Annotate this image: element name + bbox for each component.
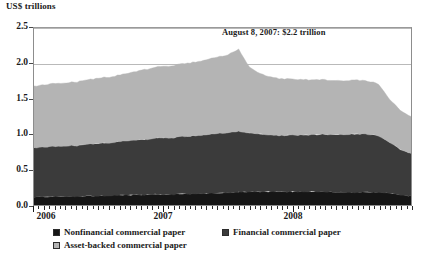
x-axis-minor-tick: [185, 206, 186, 210]
x-axis-minor-tick: [55, 206, 56, 210]
x-axis-tick-label: 2006: [37, 212, 56, 222]
y-axis-tick: [29, 63, 33, 64]
x-axis-minor-tick: [114, 206, 115, 209]
x-axis-minor-tick: [190, 206, 191, 209]
legend-label-nonfinancial: Nonfinancial commercial paper: [64, 228, 185, 237]
x-axis-minor-tick: [309, 206, 310, 209]
y-axis-tick-label: 2.5: [2, 22, 28, 32]
x-axis-minor-tick: [255, 206, 256, 209]
x-axis-minor-tick: [141, 206, 142, 210]
x-axis-minor-tick: [76, 206, 77, 210]
x-axis-minor-tick: [342, 206, 343, 209]
x-axis-minor-tick: [174, 206, 175, 210]
x-axis-minor-tick: [130, 206, 131, 210]
legend-label-assetbacked: Asset-backed commercial paper: [64, 241, 187, 250]
x-axis-minor-tick: [152, 206, 153, 210]
stacked-area-series: [34, 28, 411, 205]
x-axis-major-tick: [33, 206, 34, 212]
x-axis-minor-tick: [325, 206, 326, 210]
x-axis-minor-tick: [287, 206, 288, 209]
y-axis-tick: [29, 27, 33, 28]
x-axis-minor-tick: [412, 206, 413, 210]
legend-swatch-nonfinancial: [53, 229, 60, 236]
x-axis-minor-tick: [195, 206, 196, 210]
x-axis-minor-tick: [358, 206, 359, 210]
x-axis-minor-tick: [233, 206, 234, 209]
x-axis-minor-tick: [38, 206, 39, 209]
legend-item-assetbacked: Asset-backed commercial paper: [53, 241, 187, 250]
legend-swatch-financial: [222, 229, 229, 236]
x-axis-minor-tick: [374, 206, 375, 209]
legend-label-financial: Financial commercial paper: [233, 228, 341, 237]
x-axis-minor-tick: [158, 206, 159, 209]
x-axis-minor-tick: [250, 206, 251, 210]
y-axis-tick-label: 0.5: [2, 165, 28, 175]
x-axis-minor-tick: [87, 206, 88, 210]
x-axis-minor-tick: [179, 206, 180, 209]
y-axis-labels: 0.00.51.01.52.02.5: [0, 0, 28, 261]
x-axis-minor-tick: [266, 206, 267, 209]
y-axis-tick-label: 0.0: [2, 201, 28, 211]
legend-swatch-assetbacked: [53, 242, 60, 249]
x-axis-minor-tick: [60, 206, 61, 209]
x-axis-minor-tick: [239, 206, 240, 210]
x-axis-minor-tick: [407, 206, 408, 209]
x-axis-minor-tick: [244, 206, 245, 209]
x-axis-minor-tick: [82, 206, 83, 209]
x-axis-minor-tick: [363, 206, 364, 209]
x-axis-minor-tick: [217, 206, 218, 210]
x-axis-minor-tick: [401, 206, 402, 210]
plot-inner: [34, 28, 411, 205]
x-axis-minor-tick: [103, 206, 104, 209]
legend-item-financial: Financial commercial paper: [222, 228, 341, 237]
x-axis-minor-tick: [71, 206, 72, 209]
x-axis-minor-tick: [380, 206, 381, 210]
x-axis-minor-tick: [223, 206, 224, 209]
plot-area: [33, 27, 412, 206]
y-axis-tick: [29, 134, 33, 135]
x-axis-tick-label: 2007: [153, 212, 172, 222]
x-axis-minor-tick: [271, 206, 272, 210]
x-axis-minor-tick: [396, 206, 397, 209]
y-axis-tick-label: 2.0: [2, 58, 28, 68]
y-axis-tick: [29, 99, 33, 100]
x-axis-minor-tick: [347, 206, 348, 210]
x-axis-minor-tick: [147, 206, 148, 209]
x-axis-minor-tick: [206, 206, 207, 210]
x-axis-minor-tick: [304, 206, 305, 210]
x-axis-minor-tick: [336, 206, 337, 210]
x-axis-minor-tick: [136, 206, 137, 209]
peak-annotation: August 8, 2007: $2.2 trillion: [222, 28, 326, 37]
x-axis-minor-tick: [49, 206, 50, 209]
x-axis-minor-tick: [65, 206, 66, 210]
x-axis-minor-tick: [98, 206, 99, 210]
x-axis-minor-tick: [212, 206, 213, 209]
x-axis-minor-tick: [320, 206, 321, 209]
x-axis-minor-tick: [315, 206, 316, 210]
y-axis-tick: [29, 206, 33, 207]
x-axis-minor-tick: [201, 206, 202, 209]
x-axis-minor-tick: [260, 206, 261, 210]
y-axis-tick: [29, 170, 33, 171]
x-axis-minor-tick: [109, 206, 110, 210]
x-axis-minor-tick: [228, 206, 229, 210]
x-axis-minor-tick: [282, 206, 283, 210]
x-axis-minor-tick: [168, 206, 169, 209]
y-axis-tick-label: 1.5: [2, 94, 28, 104]
x-axis-minor-tick: [44, 206, 45, 210]
x-axis-tick-label: 2008: [283, 212, 302, 222]
y-axis-tick-label: 1.0: [2, 129, 28, 139]
x-axis-minor-tick: [385, 206, 386, 209]
x-axis-minor-tick: [125, 206, 126, 209]
x-axis-minor-tick: [93, 206, 94, 209]
x-axis-minor-tick: [331, 206, 332, 209]
x-axis-minor-tick: [277, 206, 278, 209]
commercial-paper-stacked-area-chart: US$ trillions 0.00.51.01.52.02.5 August …: [0, 0, 423, 261]
x-axis-minor-tick: [352, 206, 353, 209]
x-axis-minor-tick: [120, 206, 121, 210]
x-axis-minor-tick: [298, 206, 299, 209]
x-axis-minor-tick: [390, 206, 391, 210]
x-axis-minor-tick: [369, 206, 370, 210]
legend-item-nonfinancial: Nonfinancial commercial paper: [53, 228, 185, 237]
